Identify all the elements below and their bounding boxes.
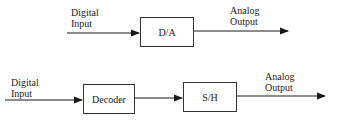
bottom-input-label: Digital Input bbox=[11, 77, 39, 99]
da-converter-block: D/A bbox=[140, 17, 194, 47]
top-input-label: Digital Input bbox=[71, 7, 99, 29]
sample-hold-block: S/H bbox=[183, 82, 237, 112]
bottom-output-label: Analog Output bbox=[265, 71, 294, 93]
decoder-block: Decoder bbox=[83, 84, 135, 114]
top-output-label: Analog Output bbox=[230, 5, 259, 27]
